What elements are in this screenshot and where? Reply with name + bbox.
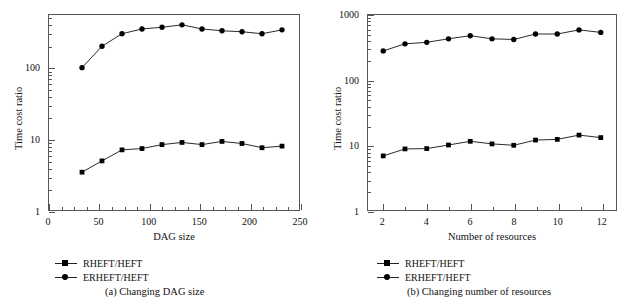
y-tick [368, 100, 371, 101]
data-point-circle [239, 29, 244, 34]
data-point-square [490, 142, 495, 147]
x-tick [225, 207, 226, 210]
x-tick [188, 207, 189, 210]
x-tick [537, 207, 538, 210]
data-point-circle [199, 26, 204, 31]
x-tick [99, 204, 100, 210]
data-point-square [120, 147, 125, 152]
y-tick [49, 25, 52, 26]
x-tick [175, 207, 176, 210]
y-tick [368, 41, 371, 42]
legend-circle-marker-icon [55, 272, 77, 282]
data-point-circle [79, 65, 84, 70]
y-tick [49, 156, 52, 157]
x-tick [405, 207, 406, 210]
data-point-circle [119, 31, 124, 36]
y-tick [368, 127, 371, 128]
panel-a-data-lines [49, 15, 299, 210]
data-point-square [140, 146, 145, 151]
legend-item-erheft: ERHEFT/HEFT [377, 270, 471, 284]
x-tick-label: 12 [597, 216, 607, 227]
panel-b-legend: RHEFT/HEFT ERHEFT/HEFT [377, 256, 471, 284]
x-tick [62, 207, 63, 210]
data-point-circle [446, 36, 451, 41]
x-tick [301, 204, 302, 210]
data-point-square [598, 135, 603, 140]
x-tick [449, 207, 450, 210]
data-point-circle [555, 31, 560, 36]
data-point-square [511, 143, 516, 148]
x-tick [263, 207, 264, 210]
panel-a-x-axis-title: DAG size [48, 231, 300, 242]
data-point-circle [533, 31, 538, 36]
data-point-square [80, 170, 85, 175]
y-tick [49, 147, 52, 148]
data-point-square [240, 141, 245, 146]
panel-b: Time cost ratio Number of resources RHEF… [315, 0, 631, 301]
y-tick-label: 10 [14, 134, 40, 145]
y-tick [368, 181, 371, 182]
y-tick [368, 61, 371, 62]
data-point-square [160, 142, 165, 147]
y-tick-label: 1 [329, 206, 359, 217]
legend-label-rheft: RHEFT/HEFT [405, 258, 464, 269]
y-tick [49, 34, 52, 35]
data-point-circle [179, 22, 184, 27]
y-tick [49, 212, 55, 213]
y-tick [368, 153, 371, 154]
y-tick [49, 79, 52, 80]
y-tick [49, 97, 52, 98]
x-tick [383, 204, 384, 210]
x-tick [493, 207, 494, 210]
x-tick [112, 207, 113, 210]
data-point-square [555, 137, 560, 142]
y-tick [49, 106, 52, 107]
y-tick-label: 1 [14, 206, 40, 217]
y-tick-label: 100 [14, 62, 40, 73]
y-tick [368, 49, 371, 50]
x-tick-label: 2 [380, 216, 385, 227]
y-tick [368, 15, 374, 16]
y-tick [368, 84, 371, 85]
x-tick [162, 207, 163, 210]
panel-a-plot-area [48, 14, 300, 211]
legend-label-rheft: RHEFT/HEFT [83, 258, 142, 269]
panel-a-legend: RHEFT/HEFT ERHEFT/HEFT [55, 256, 149, 284]
data-point-circle [468, 33, 473, 38]
y-tick [49, 90, 52, 91]
data-point-circle [259, 31, 264, 36]
data-point-square [468, 139, 473, 144]
y-tick [368, 115, 371, 116]
x-tick-label: 100 [141, 216, 156, 227]
y-tick [368, 107, 371, 108]
panel-a: Time cost ratio DAG size RHEFT/HEFT ERHE… [0, 0, 315, 301]
panel-a-caption: (a) Changing DAG size [105, 286, 204, 297]
legend-square-marker-icon [55, 258, 77, 268]
x-tick [200, 204, 201, 210]
data-point-circle [139, 26, 144, 31]
y-tick [49, 143, 52, 144]
data-point-circle [489, 36, 494, 41]
x-tick [581, 207, 582, 210]
y-tick [49, 140, 55, 141]
y-tick [49, 162, 52, 163]
data-point-circle [576, 27, 581, 32]
data-point-square [424, 146, 429, 151]
panel-b-data-lines [368, 15, 616, 210]
x-tick [559, 204, 560, 210]
x-tick [137, 207, 138, 210]
y-tick [368, 149, 371, 150]
data-point-circle [381, 48, 386, 53]
y-tick [368, 18, 371, 19]
series-line-square [82, 141, 282, 172]
x-tick [125, 207, 126, 210]
x-tick-label: 50 [93, 216, 103, 227]
x-tick [49, 204, 50, 210]
x-tick-label: 250 [293, 216, 308, 227]
legend-item-rheft: RHEFT/HEFT [55, 256, 149, 270]
y-tick [368, 91, 371, 92]
data-point-circle [511, 37, 516, 42]
y-tick-label: 100 [329, 74, 359, 85]
x-tick [603, 204, 604, 210]
y-tick [368, 87, 371, 88]
